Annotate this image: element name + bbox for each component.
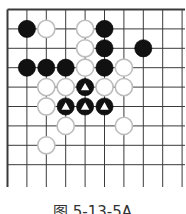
black-stone — [38, 59, 55, 76]
white-stone — [38, 79, 55, 96]
black-stone — [96, 40, 113, 57]
white-stone — [57, 117, 74, 134]
white-stone — [38, 98, 55, 115]
black-stone — [18, 59, 35, 76]
go-board — [0, 0, 185, 195]
black-stone — [96, 59, 113, 76]
black-stone — [18, 20, 35, 37]
white-stone — [38, 20, 55, 37]
white-stone — [115, 117, 132, 134]
white-stone — [96, 79, 113, 96]
black-stone — [57, 59, 74, 76]
figure-caption: 图 5-13-5A — [0, 200, 185, 214]
white-stone — [77, 59, 94, 76]
white-stone — [115, 79, 132, 96]
white-stone — [57, 79, 74, 96]
white-stone — [115, 59, 132, 76]
white-stone — [38, 137, 55, 154]
board-grid — [8, 10, 186, 188]
white-stone — [77, 40, 94, 57]
black-stone — [96, 20, 113, 37]
black-stone — [135, 40, 152, 57]
white-stone — [77, 20, 94, 37]
